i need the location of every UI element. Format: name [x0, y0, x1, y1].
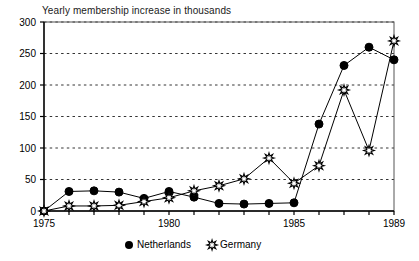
data-point-netherlands: [90, 187, 98, 195]
legend-marker-netherlands: [125, 241, 133, 249]
x-tick-label: 1989: [383, 218, 406, 229]
data-series-group: [39, 36, 399, 217]
data-point-netherlands: [215, 199, 223, 207]
legend-label-netherlands: Netherlands: [137, 239, 191, 250]
data-point-germany: [264, 153, 274, 163]
y-tick-label: 200: [19, 80, 36, 91]
y-tick-label: 0: [30, 206, 36, 217]
x-axis-ticks: 1975198019851989: [33, 211, 406, 229]
x-tick-label: 1985: [283, 218, 306, 229]
chart-legend: NetherlandsGermany: [125, 239, 261, 251]
data-point-netherlands: [315, 120, 323, 128]
data-point-netherlands: [240, 200, 248, 208]
y-axis-ticks: 050100150200250300: [19, 17, 44, 217]
data-point-netherlands: [290, 199, 298, 207]
data-point-germany: [89, 201, 99, 211]
data-point-germany: [364, 145, 374, 155]
x-tick-label: 1980: [158, 218, 181, 229]
legend-marker-germany: [207, 240, 217, 250]
y-tick-label: 300: [19, 17, 36, 28]
data-point-netherlands: [365, 43, 373, 51]
data-point-germany: [139, 196, 149, 206]
data-point-germany: [389, 36, 399, 46]
chart-plot-svg: 050100150200250300 1975198019851989 Neth…: [0, 0, 419, 261]
data-point-germany: [239, 174, 249, 184]
data-point-germany: [64, 201, 74, 211]
gridlines-group: [44, 22, 394, 180]
data-point-germany: [114, 200, 124, 210]
data-point-germany: [289, 178, 299, 188]
data-point-netherlands: [115, 188, 123, 196]
y-tick-label: 250: [19, 48, 36, 59]
data-point-germany: [214, 181, 224, 191]
data-point-netherlands: [340, 61, 348, 69]
y-tick-label: 100: [19, 143, 36, 154]
legend-label-germany: Germany: [220, 239, 261, 250]
x-tick-label: 1975: [33, 218, 56, 229]
data-point-germany: [164, 193, 174, 203]
y-tick-label: 50: [25, 174, 37, 185]
data-point-netherlands: [265, 199, 273, 207]
data-point-germany: [189, 186, 199, 196]
data-point-netherlands: [390, 56, 398, 64]
y-tick-label: 150: [19, 111, 36, 122]
data-point-germany: [339, 85, 349, 95]
chart-container: Yearly membership increase in thousands …: [0, 0, 419, 261]
data-point-germany: [39, 206, 49, 216]
data-point-netherlands: [65, 187, 73, 195]
data-point-germany: [314, 160, 324, 170]
